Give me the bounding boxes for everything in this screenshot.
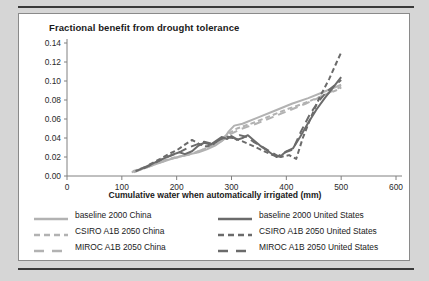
legend-swatch — [217, 210, 253, 220]
legend-item[interactable]: MIROC A1B 2050 China — [33, 239, 215, 255]
svg-text:0.10: 0.10 — [45, 76, 62, 86]
legend-label: MIROC A1B 2050 United States — [259, 242, 378, 252]
legend-item[interactable]: baseline 2000 China — [33, 207, 215, 223]
legend-item[interactable]: CSIRO A1B 2050 China — [33, 223, 215, 239]
legend-swatch — [33, 226, 69, 236]
legend-swatch — [33, 210, 69, 220]
page-rule-bottom — [18, 268, 414, 270]
legend-label: CSIRO A1B 2050 United States — [259, 226, 377, 236]
legend-label: baseline 2000 United States — [259, 210, 364, 220]
svg-text:0.08: 0.08 — [45, 95, 62, 105]
legend-label: baseline 2000 China — [75, 210, 151, 220]
legend-swatch — [217, 242, 253, 252]
svg-text:0.12: 0.12 — [45, 57, 62, 67]
figure-card: Fractional benefit from drought toleranc… — [18, 13, 410, 261]
series-line — [149, 53, 341, 165]
svg-text:0.04: 0.04 — [45, 133, 62, 143]
legend-swatch — [217, 226, 253, 236]
legend-label: CSIRO A1B 2050 China — [75, 226, 164, 236]
legend-item[interactable]: CSIRO A1B 2050 United States — [217, 223, 399, 239]
svg-text:0.02: 0.02 — [45, 152, 62, 162]
x-axis-label: Cumulative water when automatically irri… — [19, 190, 411, 200]
chart-legend: baseline 2000 Chinabaseline 2000 United … — [33, 207, 399, 255]
legend-item[interactable]: baseline 2000 United States — [217, 207, 399, 223]
legend-item[interactable]: MIROC A1B 2050 United States — [217, 239, 399, 255]
legend-swatch — [33, 242, 69, 252]
page-rule-top — [18, 6, 414, 8]
svg-text:0.00: 0.00 — [45, 171, 62, 181]
legend-label: MIROC A1B 2050 China — [75, 242, 166, 252]
svg-text:0.06: 0.06 — [45, 114, 62, 124]
svg-text:0.14: 0.14 — [45, 38, 62, 48]
